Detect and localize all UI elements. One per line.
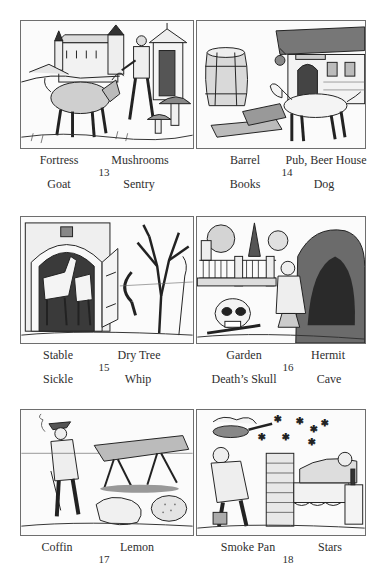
svg-text:✲: ✲ bbox=[274, 414, 282, 424]
svg-text:✲: ✲ bbox=[321, 418, 329, 428]
svg-text:✲: ✲ bbox=[308, 437, 316, 447]
card-16-label-cave: Cave bbox=[317, 372, 342, 386]
card-13-label-fortress: Fortress bbox=[40, 153, 79, 167]
card-13-label-mushrooms: Mushrooms bbox=[111, 153, 168, 167]
card-16-illustration bbox=[196, 216, 366, 344]
card-14-illustration bbox=[196, 20, 366, 149]
card-14-number: 14 bbox=[282, 166, 293, 178]
card-18-label-stars: Stars bbox=[318, 540, 342, 554]
card-16-label-deaths-skull: Death’s Skull bbox=[212, 372, 277, 386]
card-16-label-garden: Garden bbox=[226, 348, 261, 362]
card-17-illustration bbox=[20, 409, 194, 536]
card-15-number: 15 bbox=[99, 361, 110, 373]
card-17-number: 17 bbox=[99, 553, 110, 565]
card-15-illustration bbox=[20, 216, 194, 344]
garden-skull-hermit-cave-illustration bbox=[197, 217, 365, 343]
card-17-label-lemon: Lemon bbox=[120, 540, 154, 554]
card-18-label-smoke-pan: Smoke Pan bbox=[221, 540, 275, 554]
card-17-label-coffin: Coffin bbox=[41, 540, 72, 554]
coffin-lemon-illustration bbox=[21, 410, 193, 535]
svg-text:✲: ✲ bbox=[258, 432, 266, 442]
card-15-label-stable: Stable bbox=[43, 348, 73, 362]
card-13-illustration bbox=[20, 20, 194, 149]
svg-text:✲: ✲ bbox=[296, 416, 304, 426]
card-13-number: 13 bbox=[99, 166, 110, 178]
svg-text:✲: ✲ bbox=[310, 424, 318, 434]
card-18-illustration: ✲✲✲✲ ✲✲✲ bbox=[196, 409, 366, 536]
card-14-label-barrel: Barrel bbox=[230, 153, 260, 167]
stable-sickle-dry-tree-whip-illustration bbox=[21, 217, 193, 343]
card-13-label-goat: Goat bbox=[47, 177, 70, 191]
card-16-label-hermit: Hermit bbox=[311, 348, 345, 362]
card-16-number: 16 bbox=[283, 361, 294, 373]
card-15-label-whip: Whip bbox=[125, 372, 152, 386]
card-14-label-books: Books bbox=[230, 177, 261, 191]
card-15-label-sickle: Sickle bbox=[43, 372, 73, 386]
fortress-goat-sentry-mushrooms-illustration bbox=[21, 21, 193, 148]
card-18-number: 18 bbox=[283, 553, 294, 565]
svg-text:✲: ✲ bbox=[282, 432, 290, 442]
card-14-label-dog: Dog bbox=[314, 177, 335, 191]
card-13-label-sentry: Sentry bbox=[123, 177, 154, 191]
card-15-label-dry-tree: Dry Tree bbox=[117, 348, 160, 362]
barrel-books-pub-dog-illustration bbox=[197, 21, 365, 148]
smoke-pan-stars-illustration: ✲✲✲✲ ✲✲✲ bbox=[197, 410, 365, 535]
card-14-label-pub: Pub, Beer House bbox=[286, 153, 367, 167]
